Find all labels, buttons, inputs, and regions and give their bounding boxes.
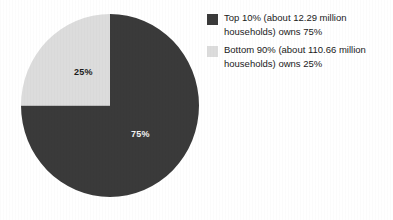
legend-swatch-icon bbox=[207, 14, 218, 25]
pie-slice-bottom-90[interactable] bbox=[21, 14, 110, 106]
pie-slice-label-25: 25% bbox=[74, 68, 93, 77]
pie-chart: 25% 75% Top 10% (about 12.29 million hou… bbox=[0, 0, 393, 220]
chart-legend: Top 10% (about 12.29 million households)… bbox=[207, 11, 393, 75]
pie-graphic: 25% 75% bbox=[21, 14, 199, 197]
legend-item-top-10[interactable]: Top 10% (about 12.29 million households)… bbox=[207, 11, 393, 38]
pie-slice-label-75: 75% bbox=[131, 130, 150, 139]
legend-swatch-icon bbox=[207, 46, 218, 57]
legend-item-label: Bottom 90% (about 110.66 million househo… bbox=[224, 43, 386, 70]
pie-svg bbox=[21, 14, 199, 197]
legend-item-label: Top 10% (about 12.29 million households)… bbox=[224, 11, 386, 38]
legend-item-bottom-90[interactable]: Bottom 90% (about 110.66 million househo… bbox=[207, 43, 393, 70]
